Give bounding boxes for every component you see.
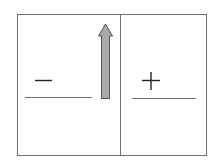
diagram-graphics xyxy=(0,0,220,165)
plus-sign-icon xyxy=(142,72,160,90)
arrow-up-icon xyxy=(99,24,113,99)
